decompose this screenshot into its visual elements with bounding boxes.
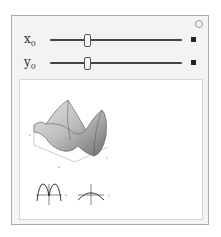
svg-text:y: y [105,155,108,159]
slider-row-y0: y0 [12,56,208,70]
svg-text:y: y [107,193,110,197]
surface-plot: x y z x y [20,80,204,221]
manipulate-panel: x0 y0 x [11,15,209,225]
gear-icon[interactable] [195,20,203,28]
slider-thumb-x0[interactable] [84,34,91,47]
output-area: x y z x y [19,79,203,220]
svg-text:x: x [65,193,67,197]
plus-icon[interactable] [191,60,196,65]
slider-y0[interactable] [50,62,182,64]
svg-text:z: z [29,133,31,137]
slider-label-x0: x0 [24,32,36,48]
svg-text:x: x [58,165,60,169]
slider-thumb-y0[interactable] [84,57,91,70]
y-slice-plot: y [78,184,110,205]
x-slice-plot: x [36,184,67,205]
slider-x0[interactable] [50,39,182,41]
slider-row-x0: x0 [12,33,208,47]
slider-label-y0: y0 [24,55,36,71]
plus-icon[interactable] [191,37,196,42]
